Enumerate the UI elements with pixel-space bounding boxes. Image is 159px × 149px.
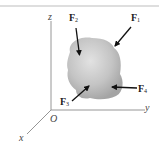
f2-subscript: 2 (75, 17, 78, 23)
rigid-body (67, 38, 122, 100)
f3-subscript: 3 (66, 101, 69, 107)
f1-subscript: 1 (137, 17, 140, 23)
f1-arrow (115, 27, 131, 46)
f2-label: F2 (69, 13, 78, 23)
f3-label: F3 (60, 97, 69, 107)
y-axis-label: y (145, 103, 149, 113)
force-diagram: z y x O F1 F2 F3 F4 (0, 0, 159, 149)
x-axis (27, 110, 51, 134)
f4-subscript: 4 (144, 88, 147, 94)
x-axis-label: x (19, 133, 23, 143)
f4-label: F4 (138, 84, 147, 94)
f1-label: F1 (131, 13, 140, 23)
origin-label: O (50, 114, 57, 124)
z-axis-label: z (48, 12, 52, 22)
